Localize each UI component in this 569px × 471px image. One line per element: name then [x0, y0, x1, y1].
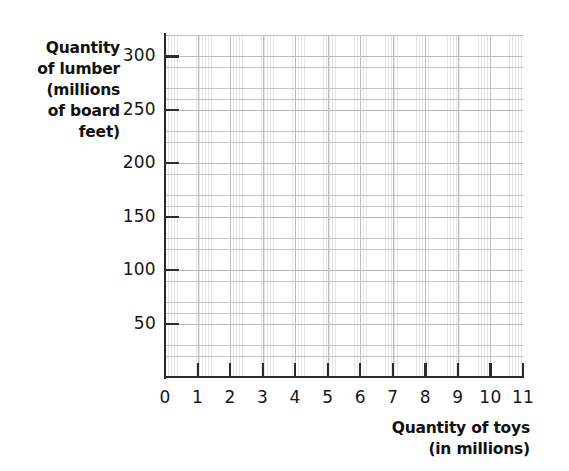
y-axis-title-line-5: feet) — [8, 122, 120, 143]
y-axis-tick — [166, 216, 179, 218]
y-axis-title-line-4: of board — [8, 101, 120, 122]
gridline-vertical — [458, 35, 459, 377]
x-axis-tick — [294, 363, 296, 377]
gridline-vertical — [263, 35, 264, 377]
y-axis-tick — [166, 55, 179, 57]
gridline-vertical — [295, 35, 296, 377]
y-axis-line — [164, 33, 166, 379]
gridline-vertical — [328, 35, 329, 377]
plot-area — [165, 35, 523, 377]
x-axis-tick — [522, 363, 524, 377]
gridline-vertical — [360, 35, 361, 377]
y-axis-tick-label: 100 — [110, 259, 156, 279]
gridline-vertical — [198, 35, 199, 377]
gridline-vertical — [230, 35, 231, 377]
x-axis-tick — [327, 363, 329, 377]
y-axis-tick — [166, 162, 179, 164]
y-axis-title-line-2: of lumber — [8, 59, 120, 80]
x-axis-line — [164, 376, 524, 378]
gridline-vertical — [490, 35, 491, 377]
x-axis-tick-label: 11 — [503, 387, 543, 407]
x-axis-tick — [197, 363, 199, 377]
y-axis-tick-label: 250 — [110, 99, 156, 119]
y-axis-title-line-1: Quantity — [8, 38, 120, 59]
x-axis-tick — [262, 363, 264, 377]
x-axis-tick — [359, 363, 361, 377]
gridline-vertical — [393, 35, 394, 377]
x-axis-tick — [392, 363, 394, 377]
y-axis-title-line-3: (millions — [8, 80, 120, 101]
gridline-vertical — [425, 35, 426, 377]
y-axis-tick-label: 200 — [110, 152, 156, 172]
y-axis-tick-label: 50 — [110, 313, 156, 333]
x-axis-title: Quantity of toys (in millions) — [250, 418, 530, 460]
y-axis-tick — [166, 109, 179, 111]
major-vertical-gridlines — [165, 35, 523, 377]
x-axis-tick — [457, 363, 459, 377]
x-axis-tick — [229, 363, 231, 377]
y-axis-tick-label: 150 — [110, 206, 156, 226]
chart-figure: Quantity of lumber (millions of board fe… — [0, 0, 569, 471]
x-axis-tick — [489, 363, 491, 377]
y-axis-tick — [166, 269, 179, 271]
x-axis-title-line-1: Quantity of toys — [250, 418, 530, 439]
y-axis-title: Quantity of lumber (millions of board fe… — [8, 38, 120, 143]
x-axis-title-line-2: (in millions) — [250, 439, 530, 460]
x-axis-tick — [424, 363, 426, 377]
y-axis-tick — [166, 323, 179, 325]
y-axis-tick-label: 300 — [110, 45, 156, 65]
